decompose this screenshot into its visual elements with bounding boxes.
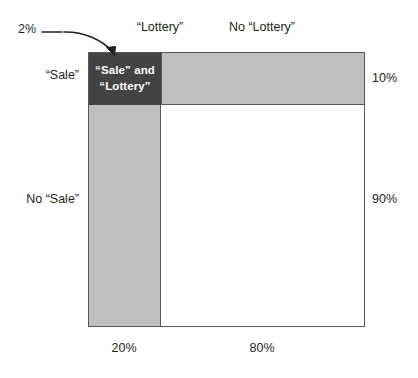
cell-label-line1: “Sale” and bbox=[95, 63, 155, 79]
row-label-no-sale: No “Sale” bbox=[26, 192, 79, 206]
cell-sale-and-no-lottery bbox=[161, 53, 364, 105]
callout-arrow-icon bbox=[40, 18, 130, 60]
cell-no-sale-and-lottery bbox=[89, 105, 161, 326]
row-percent-90: 90% bbox=[372, 192, 397, 206]
column-percent-20: 20% bbox=[111, 341, 136, 355]
row-percent-10: 10% bbox=[372, 71, 397, 85]
mosaic-chart-figure: “Sale” and “Lottery” “Lottery” No “Lotte… bbox=[0, 0, 418, 378]
cell-sale-and-lottery: “Sale” and “Lottery” bbox=[89, 53, 161, 105]
plot-frame: “Sale” and “Lottery” bbox=[88, 52, 365, 327]
column-label-no-lottery: No “Lottery” bbox=[229, 20, 295, 34]
row-label-sale: “Sale” bbox=[46, 68, 79, 82]
cell-no-sale-and-no-lottery bbox=[161, 105, 364, 326]
callout-label-2-percent: 2% bbox=[18, 22, 36, 36]
cell-label-line2: “Lottery” bbox=[95, 79, 155, 95]
column-label-lottery: “Lottery” bbox=[137, 20, 184, 34]
column-percent-80: 80% bbox=[249, 341, 274, 355]
